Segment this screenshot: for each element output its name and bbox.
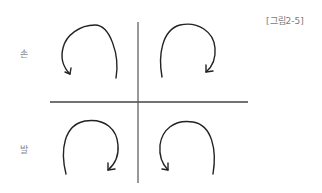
rotation-arrow-bottom-right-icon (160, 122, 214, 174)
quadrant-diagram (0, 0, 322, 193)
rotation-arrow-bottom-left-icon (63, 121, 118, 174)
rotation-arrow-top-left-icon (62, 25, 117, 78)
rotation-arrow-top-right-icon (161, 24, 216, 77)
